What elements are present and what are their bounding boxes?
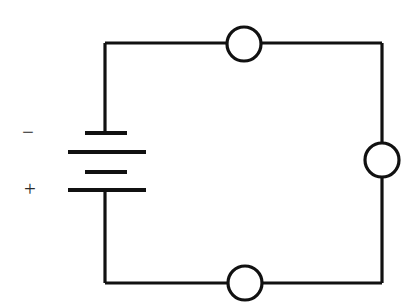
lamp-top [227,27,261,61]
battery-positive-label: + [24,177,36,201]
lamp-bottom [228,266,262,300]
battery-negative-label: − [22,120,34,144]
wire-group [105,43,382,283]
lamp-group [227,27,399,300]
circuit-diagram-canvas: − + [0,0,410,306]
lamp-right [365,143,399,177]
circuit-diagram: − + [0,0,410,306]
battery-symbol [68,133,146,190]
terminal-label-group: − + [22,120,36,201]
